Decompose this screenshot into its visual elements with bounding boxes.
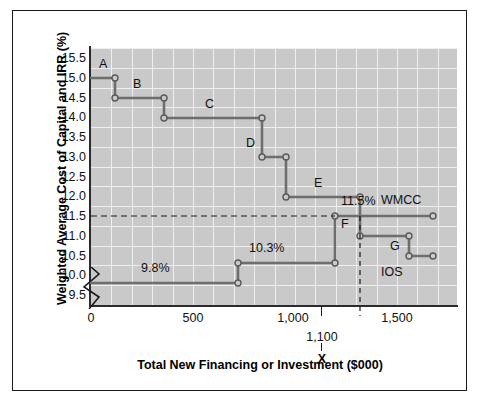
project-label-f: F [341,218,349,231]
intersection-value-label: 1,100 [285,330,359,344]
gridline-vertical [111,48,112,305]
gridline-horizontal [91,285,457,286]
gridline-vertical [377,48,378,305]
project-label-d: D [246,137,255,150]
gridline-horizontal [91,127,457,128]
x-axis-title: Total New Financing or Investment ($000) [60,358,460,372]
gridline-horizontal [91,147,457,148]
figure-container: 15.5 15.0 14.5 14.0 13.5 13.0 12.5 12.0 … [0,0,481,407]
x-axis-line [89,305,458,307]
gridline-vertical [438,48,439,305]
gridline-horizontal [91,68,457,69]
gridline-horizontal [91,226,457,227]
project-label-a: A [99,58,107,71]
x-tick-label: 500 [163,312,223,325]
gridline-vertical [336,48,337,305]
gridline-horizontal [91,88,457,89]
gridline-vertical [234,48,235,305]
rate-label-wmcc-2: 10.3% [249,242,284,255]
gridline-vertical [417,48,418,305]
gridline-vertical [193,48,194,305]
project-label-g: G [390,240,400,253]
project-label-e: E [314,177,322,190]
project-label-c: C [205,98,214,111]
x-tick-label: 0 [61,312,121,325]
intersection-tick-lower [321,343,322,351]
gridline-horizontal [91,48,457,49]
rate-label-wmcc-3: 11.5% [341,195,376,208]
curve-label-ios: IOS [381,266,403,279]
rate-label-wmcc-1: 9.8% [141,262,170,275]
y-axis-title-container: Weighted Average Cost of Capital and IRR… [24,0,50,407]
gridline-horizontal [91,167,457,168]
intersection-tick-upper [321,306,322,316]
x-tick-label: 1,000 [263,312,323,325]
gridline-vertical [295,48,296,305]
gridline-horizontal [91,107,457,108]
gridline-vertical [173,48,174,305]
y-axis-title: Weighted Average Cost of Capital and IRR… [55,45,69,305]
gridline-vertical [275,48,276,305]
gridline-vertical [356,48,357,305]
curve-label-wmcc: WMCC [381,194,421,207]
gridline-vertical [254,48,255,305]
project-label-b: B [133,78,141,91]
gridline-horizontal [91,186,457,187]
gridline-vertical [213,48,214,305]
x-tick-label: 1,500 [367,312,427,325]
